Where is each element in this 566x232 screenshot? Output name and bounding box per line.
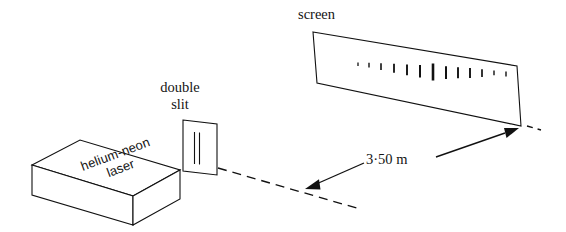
screen-label: screen (298, 6, 335, 23)
double-slit-label-line1: double (160, 79, 199, 95)
observation-screen (313, 32, 521, 126)
screen-plate (313, 32, 521, 126)
diagram-canvas (0, 0, 566, 232)
distance-arrow-left-shaft (314, 163, 364, 185)
distance-measurement-arrows (305, 128, 519, 190)
double-slit-label: doubleslit (148, 79, 212, 113)
distance-label: 3·50 m (366, 151, 407, 168)
axis-dash-stub-right (527, 126, 541, 130)
distance-arrow-left-head (305, 179, 321, 189)
double-slit-barrier (183, 120, 217, 175)
physics-diagram: screen doubleslit 3·50 m helium-neonlase… (0, 0, 566, 232)
distance-arrow-right-head (504, 128, 519, 138)
double-slit-label-line2: slit (148, 96, 212, 113)
distance-arrow-right-shaft (436, 133, 505, 157)
